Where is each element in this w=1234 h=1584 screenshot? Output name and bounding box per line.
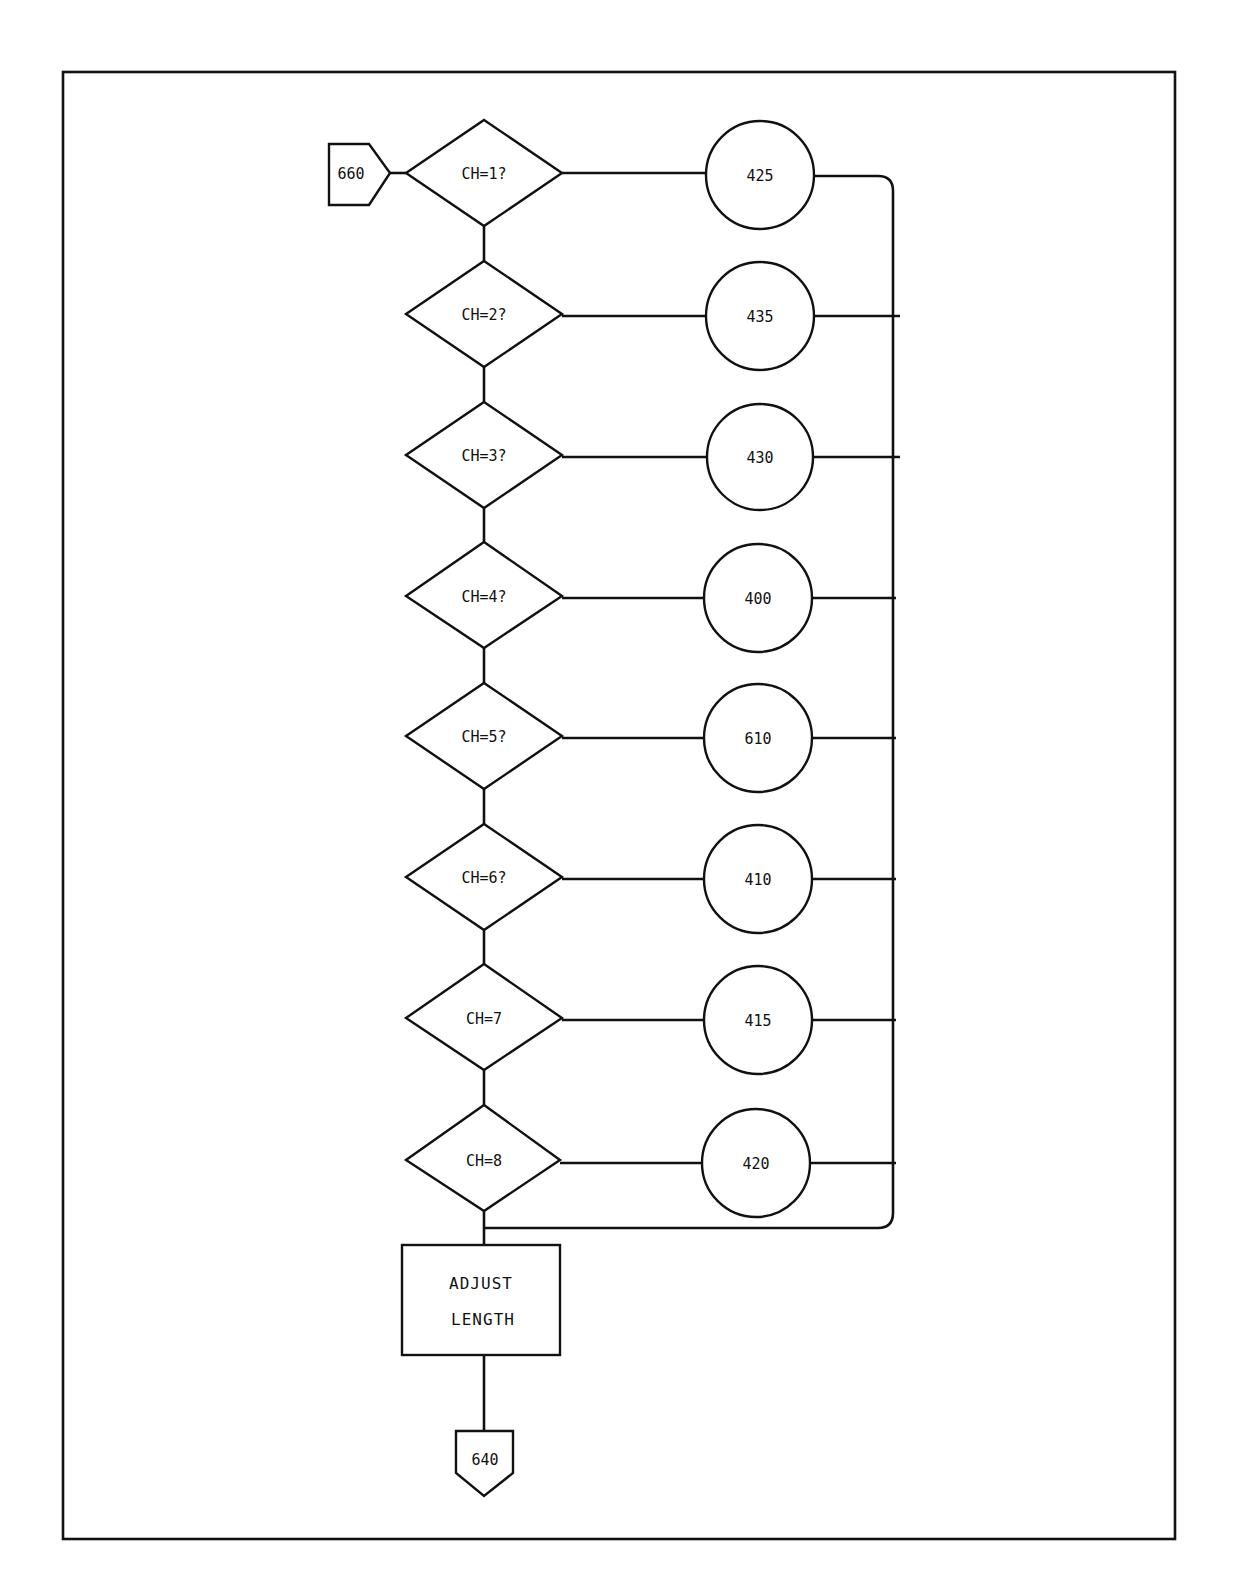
target-label: 435: [746, 308, 773, 326]
exit-connector-640[interactable]: 640: [456, 1431, 513, 1496]
target-circle-400[interactable]: 400: [704, 544, 812, 652]
target-circle-610[interactable]: 610: [704, 684, 812, 792]
decision-ch-4[interactable]: CH=4?: [406, 542, 562, 648]
target-circle-420[interactable]: 420: [702, 1109, 810, 1217]
decision-ch-2[interactable]: CH=2?: [406, 261, 562, 367]
target-label: 610: [744, 730, 771, 748]
decision-ch-8[interactable]: CH=8: [406, 1105, 560, 1211]
target-label: 430: [746, 449, 773, 467]
decision-label: CH=6?: [461, 869, 506, 887]
entry-connector-660[interactable]: 660: [329, 144, 390, 205]
decision-label: CH=7: [466, 1010, 502, 1028]
target-label: 425: [746, 167, 773, 185]
process-label-line1: ADJUST: [449, 1274, 513, 1293]
target-label: 420: [742, 1155, 769, 1173]
return-bus-line: [484, 176, 893, 1228]
target-label: 410: [744, 871, 771, 889]
target-circle-425[interactable]: 425: [706, 121, 814, 229]
decision-label: CH=3?: [461, 447, 506, 465]
decision-label: CH=1?: [461, 165, 506, 183]
decision-label: CH=8: [466, 1152, 502, 1170]
flowchart-page: 660 CH=1? CH=2? CH=3? CH=4? CH=5? CH=6? …: [0, 0, 1234, 1584]
target-label: 415: [744, 1012, 771, 1030]
target-circle-435[interactable]: 435: [706, 262, 814, 370]
target-circle-430[interactable]: 430: [707, 404, 813, 510]
target-circle-415[interactable]: 415: [704, 966, 812, 1074]
flowchart-canvas: 660 CH=1? CH=2? CH=3? CH=4? CH=5? CH=6? …: [0, 0, 1234, 1584]
decision-ch-6[interactable]: CH=6?: [406, 824, 562, 930]
decision-ch-5[interactable]: CH=5?: [406, 683, 562, 789]
target-circle-410[interactable]: 410: [704, 825, 812, 933]
decision-ch-1[interactable]: CH=1?: [406, 120, 562, 226]
decision-label: CH=5?: [461, 728, 506, 746]
decision-ch-3[interactable]: CH=3?: [406, 402, 562, 508]
decision-label: CH=4?: [461, 588, 506, 606]
page-frame: [63, 72, 1175, 1539]
decision-ch-7[interactable]: CH=7: [406, 964, 562, 1070]
adjust-length-box[interactable]: ADJUST LENGTH: [402, 1245, 560, 1355]
exit-connector-label: 640: [471, 1451, 498, 1469]
decision-label: CH=2?: [461, 306, 506, 324]
target-label: 400: [744, 590, 771, 608]
entry-connector-label: 660: [337, 165, 364, 183]
process-label-line2: LENGTH: [451, 1310, 515, 1329]
